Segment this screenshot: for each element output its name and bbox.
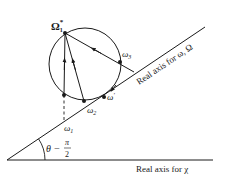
horizontal-axis-label: Real axis for χ — [136, 164, 188, 174]
omega-prime-label: ω′ — [107, 91, 115, 102]
omega3-point — [118, 60, 122, 64]
circle-diagram: Ω1* ω3 ω′ ω2 ω1 θ − π 2 Real axis for ω,… — [0, 0, 228, 188]
angle-label: θ − — [46, 143, 60, 154]
omega3-label: ω3 — [122, 49, 131, 60]
omega3-chord-arrow — [93, 49, 101, 54]
angle-label-denominator: 2 — [65, 150, 69, 159]
omega2-chord-arrow — [73, 61, 76, 71]
locus-circle — [49, 28, 121, 100]
omega-prime-point — [102, 95, 106, 99]
circle-point-left — [62, 93, 66, 97]
omega-star-point — [63, 31, 67, 35]
omega2-label: ω2 — [87, 105, 96, 116]
tilted-axis-label: Real axis for ω, Ω — [135, 42, 195, 87]
omega-star-label: Ω1* — [51, 18, 64, 33]
omega1-label: ω1 — [64, 123, 73, 134]
angle-arc — [39, 139, 46, 160]
omega2-point — [82, 99, 86, 103]
angle-label-numerator: π — [65, 138, 70, 147]
